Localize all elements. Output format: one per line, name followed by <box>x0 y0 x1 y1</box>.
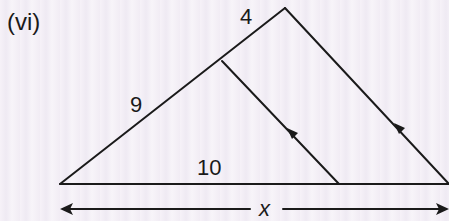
label-side-upper: 4 <box>240 6 252 28</box>
parallel-arrow-outer-icon <box>394 123 405 134</box>
right-side <box>285 8 449 184</box>
label-total-base: x <box>259 198 270 220</box>
inner-parallel-line <box>222 61 339 184</box>
label-side-lower: 9 <box>130 94 142 116</box>
part-label: (vi) <box>7 10 40 34</box>
left-side <box>60 8 285 184</box>
label-base-segment: 10 <box>197 157 221 179</box>
parallel-arrow-inner-icon <box>287 128 298 139</box>
triangle-diagram <box>0 0 449 221</box>
